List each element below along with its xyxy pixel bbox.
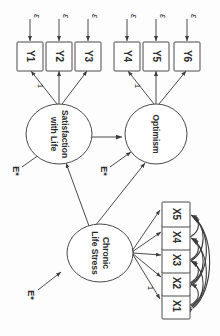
fixed-loading-label-y1: 1 bbox=[36, 84, 45, 89]
svg-text:with Life: with Life bbox=[49, 116, 59, 152]
indicator-label-y6: Y6 bbox=[182, 50, 193, 63]
latent-label-optimism: Optimism bbox=[151, 114, 161, 154]
indicator-label-y1: Y1 bbox=[25, 50, 36, 63]
fixed-loading-label-y4: 1 bbox=[133, 84, 142, 89]
epsilon-label-6: ε bbox=[189, 14, 199, 19]
epsilon-label-5: ε bbox=[158, 14, 168, 19]
sem-canvas: ε ε ε ε ε ε Y1 Y2 Y3 Y4 Y5 Y6 X1 X2 X3 X… bbox=[0, 0, 220, 336]
svg-text:Chronic: Chronic bbox=[101, 237, 111, 269]
indicator-label-y4: Y4 bbox=[122, 50, 133, 63]
disturbance-label-satisfaction: E* bbox=[11, 166, 21, 176]
svg-text:Satisfaction: Satisfaction bbox=[60, 110, 70, 158]
indicator-label-x4: X4 bbox=[171, 231, 182, 244]
disturbance-label-stress: E* bbox=[26, 290, 36, 300]
indicator-label-y5: Y5 bbox=[151, 50, 162, 63]
indicator-label-x3: X3 bbox=[171, 254, 182, 267]
covariance-arc-group bbox=[190, 215, 210, 308]
epsilon-label-4: ε bbox=[129, 14, 139, 19]
latent-label-stress: Chronic Life Stress bbox=[90, 231, 111, 275]
epsilon-arrow-group bbox=[30, 19, 187, 41]
sem-path-diagram: ε ε ε ε ε ε Y1 Y2 Y3 Y4 Y5 Y6 X1 X2 X3 X… bbox=[0, 0, 220, 336]
epsilon-label-3: ε bbox=[90, 14, 100, 19]
svg-text:Optimism: Optimism bbox=[151, 114, 161, 154]
svg-text:Life Stress: Life Stress bbox=[90, 231, 100, 275]
latent-label-satisfaction: Satisfaction with Life bbox=[49, 110, 70, 158]
fixed-loading-label-x1: 1 bbox=[146, 286, 155, 291]
epsilon-label-2: ε bbox=[61, 14, 71, 19]
indicator-label-x5: X5 bbox=[171, 208, 182, 221]
loading-arrows-stress bbox=[130, 210, 161, 299]
indicator-label-y2: Y2 bbox=[54, 50, 65, 63]
epsilon-label-1: ε bbox=[32, 14, 42, 19]
disturbance-label-optimism: E* bbox=[99, 166, 109, 176]
indicator-label-x2: X2 bbox=[171, 277, 182, 290]
indicator-label-y3: Y3 bbox=[83, 50, 94, 63]
path-stress-to-satisfaction bbox=[66, 163, 89, 226]
indicator-label-x1: X1 bbox=[171, 300, 182, 313]
